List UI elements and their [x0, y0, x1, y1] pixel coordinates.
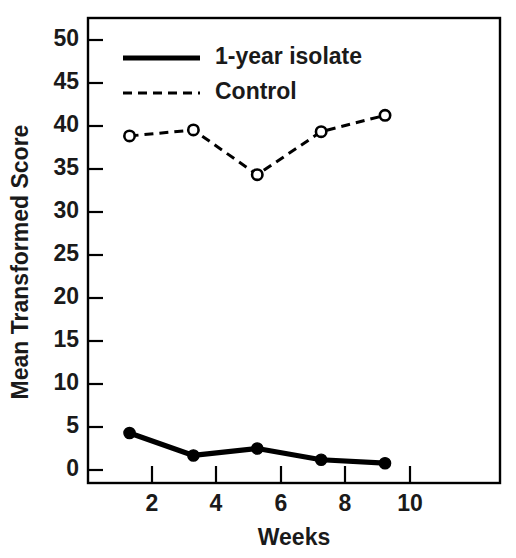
series-isolate — [124, 427, 391, 468]
x-axis-ticks — [152, 466, 410, 483]
data-point — [188, 450, 199, 461]
x-tick-label-8: 8 — [339, 490, 352, 516]
y-tick-label-30: 30 — [53, 197, 79, 223]
legend-label-isolate: 1-year isolate — [215, 43, 362, 69]
data-point — [124, 131, 134, 141]
data-point — [379, 458, 390, 469]
x-tick-label-4: 4 — [210, 490, 223, 516]
data-point — [252, 443, 263, 454]
y-tick-label-10: 10 — [53, 369, 79, 395]
x-tick-label-6: 6 — [275, 490, 288, 516]
y-axis-title: Mean Transformed Score — [7, 125, 33, 400]
x-tick-label-10: 10 — [397, 490, 423, 516]
y-tick-label-40: 40 — [53, 111, 79, 137]
y-tick-label-50: 50 — [53, 25, 79, 51]
y-tick-label-35: 35 — [53, 154, 79, 180]
y-tick-label-25: 25 — [53, 240, 79, 266]
y-tick-label-20: 20 — [53, 283, 79, 309]
legend: 1-year isolate Control — [123, 43, 362, 104]
series-control — [124, 110, 390, 180]
series-control-line — [130, 115, 385, 174]
y-tick-label-0: 0 — [66, 455, 79, 481]
data-point — [316, 454, 327, 465]
legend-label-control: Control — [215, 78, 297, 104]
data-point — [316, 126, 326, 136]
data-point — [124, 427, 135, 438]
line-chart: 0 5 10 15 20 25 30 35 40 45 50 2 4 6 8 1… — [0, 0, 516, 558]
x-tick-label-2: 2 — [146, 490, 159, 516]
data-point — [252, 170, 262, 180]
y-tick-label-45: 45 — [53, 68, 79, 94]
x-axis-tick-labels: 2 4 6 8 10 — [146, 490, 423, 516]
figure-container: 0 5 10 15 20 25 30 35 40 45 50 2 4 6 8 1… — [0, 0, 516, 558]
data-point — [380, 110, 390, 120]
y-axis-ticks — [88, 40, 103, 470]
y-axis-tick-labels: 0 5 10 15 20 25 30 35 40 45 50 — [53, 25, 79, 481]
x-axis-title: Weeks — [258, 524, 330, 550]
y-tick-label-15: 15 — [53, 326, 79, 352]
data-point — [188, 125, 198, 135]
series-control-markers — [124, 110, 390, 180]
y-tick-label-5: 5 — [66, 412, 79, 438]
